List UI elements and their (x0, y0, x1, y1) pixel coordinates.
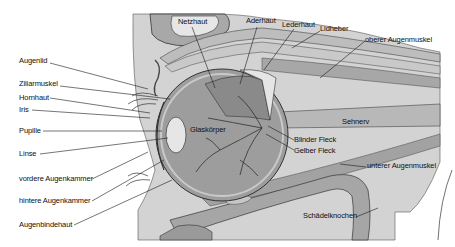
label-schaedelknochen: Schädelknochen (303, 212, 357, 220)
label-hintere-augenkammer: hintere Augenkammer (19, 197, 90, 205)
label-augenlid: Augenlid (19, 57, 47, 65)
label-sehnerv: Sehnerv (342, 118, 369, 126)
label-lederhaut: Lederhaut (282, 21, 315, 29)
label-netzhaut: Netzhaut (178, 18, 207, 26)
label-oberer-augenmuskel: oberer Augenmuskel (365, 36, 432, 44)
label-blinder-fleck: Blinder Fleck (294, 136, 336, 144)
eye-anatomy-diagram: Augenlid Ziliarmuskel Hornhaut Iris Pupi… (0, 0, 455, 247)
label-hornhaut: Hornhaut (19, 94, 49, 102)
label-glaskoerper: Glaskörper (190, 126, 226, 134)
lens (166, 117, 186, 153)
label-lidheber: Lidheber (320, 25, 348, 33)
label-ziliarmuskel: Ziliarmuskel (19, 80, 58, 88)
label-augenbindehaut: Augenbindehaut (19, 221, 72, 229)
label-gelber-fleck: Gelber Fleck (294, 147, 335, 155)
label-linse: Linse (19, 150, 36, 158)
label-pupille: Pupille (19, 127, 41, 135)
label-aderhaut: Aderhaut (246, 17, 276, 25)
label-iris: Iris (19, 106, 29, 114)
label-unterer-augenmuskel: unterer Augenmuskel (367, 162, 436, 170)
label-vordere-augenkammer: vordere Augenkammer (19, 175, 93, 183)
